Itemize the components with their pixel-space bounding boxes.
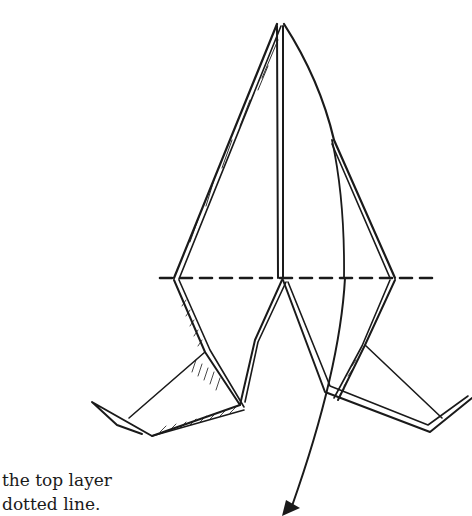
left-upper-flap (174, 24, 281, 279)
right-lower-flap (283, 280, 472, 432)
caption-line-2: dotted line. (2, 492, 112, 516)
left-lower-flap (92, 280, 286, 436)
origami-diagram (0, 0, 472, 516)
instruction-caption: the top layer dotted line. (2, 468, 112, 516)
caption-line-1: the top layer (2, 468, 112, 492)
arrow-head-icon (282, 500, 300, 516)
center-crease (277, 26, 283, 278)
right-upper-flap (284, 24, 395, 278)
